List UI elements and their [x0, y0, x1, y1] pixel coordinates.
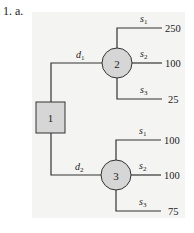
- edge-d1: [51, 63, 102, 102]
- svg-text:2: 2: [114, 58, 120, 70]
- decision-tree: 1 2 3 d1 d2 s1 s2 s3 s1 s2 s3 250 100 25…: [0, 0, 194, 233]
- label-d2: d2: [75, 161, 84, 174]
- label-node3-s1: s1: [139, 125, 147, 138]
- payoff-node2-s2: 100: [165, 58, 181, 69]
- edge-node2-s1: [117, 28, 162, 48]
- edge-node3-s1: [116, 140, 161, 160]
- label-node3-s2: s2: [139, 160, 147, 173]
- label-d1: d1: [76, 49, 85, 62]
- chance-node-2: 2: [102, 48, 132, 78]
- payoff-node2-s1: 250: [165, 23, 181, 34]
- chance-node-3: 3: [101, 160, 131, 190]
- label-node3-s3: s3: [139, 196, 147, 209]
- payoff-node3-s1: 100: [164, 135, 180, 146]
- decision-node-1: 1: [36, 102, 65, 133]
- label-node2-s1: s1: [140, 13, 148, 26]
- payoff-node3-s3: 75: [168, 206, 179, 217]
- svg-text:1: 1: [48, 112, 54, 124]
- label-node2-s2: s2: [140, 48, 148, 61]
- payoff-node3-s2: 100: [164, 170, 180, 181]
- svg-text:3: 3: [113, 170, 119, 182]
- label-node2-s3: s3: [140, 84, 148, 97]
- payoff-node2-s3: 25: [168, 94, 179, 105]
